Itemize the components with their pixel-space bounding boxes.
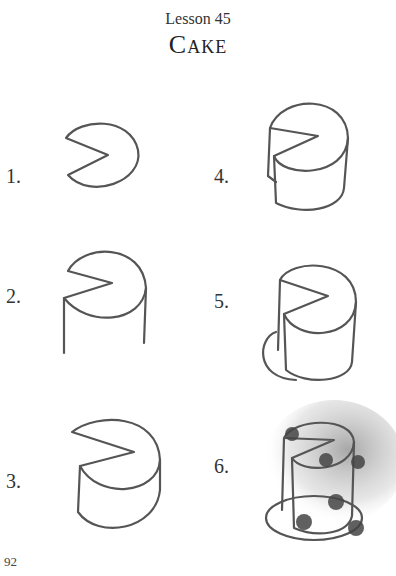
step-4-drawing	[262, 98, 362, 218]
page-title: Cake	[0, 30, 396, 60]
step-1-drawing	[60, 120, 150, 200]
step-5-drawing	[256, 262, 366, 392]
page-number: 92	[4, 554, 17, 570]
step-number-1: 1.	[6, 165, 21, 188]
step-number-5: 5.	[214, 290, 229, 313]
step-3-drawing	[68, 420, 168, 540]
lesson-label: Lesson 45	[0, 10, 396, 28]
step-6-drawing	[262, 410, 392, 560]
step-2-drawing	[58, 243, 158, 363]
step-number-6: 6.	[214, 455, 229, 478]
step-number-4: 4.	[214, 165, 229, 188]
step-number-2: 2.	[6, 285, 21, 308]
step-number-3: 3.	[6, 470, 21, 493]
